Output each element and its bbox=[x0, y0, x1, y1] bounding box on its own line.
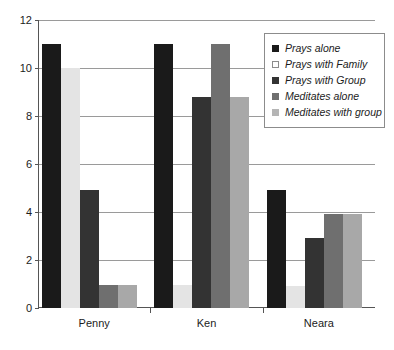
bar bbox=[154, 44, 173, 308]
x-axis-tick bbox=[150, 308, 151, 313]
bar bbox=[118, 285, 137, 308]
bar bbox=[343, 214, 362, 308]
legend-item-label: Meditates with group bbox=[285, 107, 382, 118]
bar-group bbox=[150, 20, 262, 308]
legend-swatch-icon bbox=[272, 109, 279, 116]
legend-item-label: Meditates alone bbox=[285, 91, 359, 102]
y-axis-label: 10 bbox=[20, 63, 32, 74]
legend-item-label: Prays with Group bbox=[285, 75, 366, 86]
bar-group bbox=[38, 20, 150, 308]
x-axis-cell: Ken bbox=[150, 308, 262, 338]
bar bbox=[99, 285, 118, 308]
legend-item[interactable]: Prays with Group bbox=[272, 74, 378, 87]
x-axis-label: Neara bbox=[263, 318, 375, 329]
x-axis-tick bbox=[263, 308, 264, 313]
x-axis-cell: Neara bbox=[263, 308, 375, 338]
bar bbox=[211, 44, 230, 308]
legend-item[interactable]: Prays alone bbox=[272, 42, 378, 55]
y-axis-label: 8 bbox=[26, 111, 32, 122]
legend-item[interactable]: Prays with Family bbox=[272, 58, 378, 71]
legend-swatch-icon bbox=[272, 61, 279, 68]
y-axis-label: 6 bbox=[26, 159, 32, 170]
x-axis-cell: Penny bbox=[38, 308, 150, 338]
x-axis-label: Ken bbox=[150, 318, 262, 329]
legend-swatch-icon bbox=[272, 77, 279, 84]
bar bbox=[61, 68, 80, 308]
bar bbox=[305, 238, 324, 308]
bar bbox=[230, 97, 249, 308]
legend-swatch-icon bbox=[272, 93, 279, 100]
y-axis-label: 0 bbox=[26, 303, 32, 314]
legend-item-label: Prays alone bbox=[285, 43, 340, 54]
bar bbox=[42, 44, 61, 308]
legend-item[interactable]: Meditates alone bbox=[272, 90, 378, 103]
x-axis: PennyKenNeara bbox=[38, 308, 375, 338]
bar bbox=[286, 286, 305, 308]
legend-item[interactable]: Meditates with group bbox=[272, 106, 378, 119]
bar bbox=[192, 97, 211, 308]
bar bbox=[324, 214, 343, 308]
bar bbox=[267, 190, 286, 308]
legend-item-label: Prays with Family bbox=[285, 59, 367, 70]
legend-swatch-icon bbox=[272, 45, 279, 52]
y-axis-label: 12 bbox=[20, 15, 32, 26]
bar-chart: 024681012 PennyKenNeara Prays alonePrays… bbox=[0, 0, 394, 350]
legend: Prays alonePrays with FamilyPrays with G… bbox=[264, 33, 385, 128]
bar bbox=[80, 190, 99, 308]
bar bbox=[173, 285, 192, 308]
y-axis-label: 2 bbox=[26, 255, 32, 266]
y-axis-label: 4 bbox=[26, 207, 32, 218]
x-axis-label: Penny bbox=[38, 318, 150, 329]
